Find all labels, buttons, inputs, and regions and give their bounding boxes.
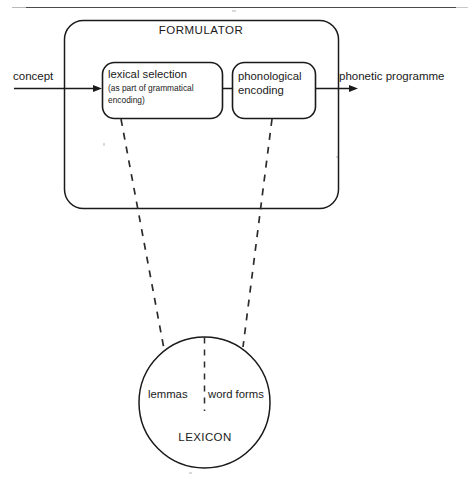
lexicon-lemmas-label: lemmas [148, 388, 188, 401]
lexicon-word-forms-label: word forms [208, 388, 264, 401]
lexicon-title-label: LEXICON [0, 431, 410, 445]
concept-input-arrowhead [93, 85, 102, 92]
phonological-encoding-label-line2: encoding [238, 84, 284, 96]
lexical-selection-label-line3: encoding) [108, 95, 145, 105]
diagram-canvas: FORMULATOR concept phonetic programme le… [0, 0, 471, 484]
phonological-encoding-label-line1: phonological [238, 70, 301, 82]
lexical-selection-label-line1: lexical selection [108, 68, 187, 80]
phonetic-output-arrowhead [349, 85, 358, 92]
phonetic-programme-output-label: phonetic programme [339, 70, 444, 84]
lemmas-link-dashed-line [121, 119, 164, 349]
formulator-title: FORMULATOR [0, 24, 402, 38]
lexical-selection-label-line2: (as part of grammatical [108, 83, 194, 93]
word-forms-link-dashed-line [243, 119, 272, 347]
concept-input-label: concept [13, 70, 53, 84]
